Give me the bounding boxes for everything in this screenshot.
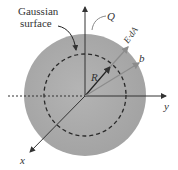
gaussian-label-line1: Gaussian [18, 5, 59, 17]
gaussian-sphere-diagram: Gaussian surface Q E·dA b R x y [0, 0, 178, 170]
inner-radius-label: R [90, 71, 98, 83]
charge-label: Q [107, 10, 115, 22]
outer-radius-label: b [139, 52, 145, 64]
charge-pointer [92, 16, 106, 30]
x-axis-label: x [19, 154, 25, 166]
y-axis-label: y [163, 100, 169, 112]
flux-label: E·dA [121, 24, 140, 46]
gaussian-label-line2: surface [20, 17, 52, 29]
